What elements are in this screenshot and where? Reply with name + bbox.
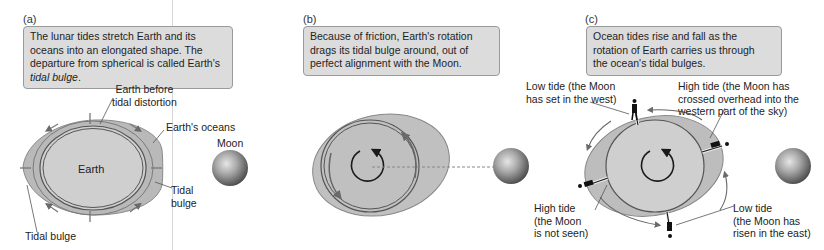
label-earth-before-distortion: Earth before tidal distortion [112, 83, 177, 108]
label-high-tide-unseen: High tide (the Moon is not seen) [534, 202, 588, 240]
label-line: has set in the west) [526, 93, 616, 106]
earth-body [606, 120, 704, 212]
label-line: is not seen) [534, 227, 588, 240]
label-low-tide-west: Low tide (the Moon has set in the west) [526, 80, 616, 105]
label-earth: Earth [78, 163, 104, 176]
label-tidal-bulge-right: Tidal bulge [171, 184, 197, 209]
label-line: crossed overhead into the [678, 93, 799, 106]
label-line: (the Moon has [733, 215, 811, 228]
label-line: Tidal [171, 184, 197, 197]
person-bottom-icon [667, 212, 672, 238]
label-line: High tide [534, 202, 588, 215]
label-line: Low tide [733, 202, 811, 215]
panel-a-diagram [20, 98, 248, 232]
label-moon: Moon [217, 137, 243, 150]
diagram-canvas [0, 0, 824, 250]
label-tidal-bulge-left: Tidal bulge [25, 230, 76, 243]
label-line: Earth before [112, 83, 177, 96]
label-line: Low tide (the Moon [526, 80, 616, 93]
label-line: (the Moon [534, 215, 588, 228]
moon-icon [775, 148, 811, 184]
label-line: bulge [171, 197, 197, 210]
label-high-tide-overhead: High tide (the Moon has crossed overhead… [678, 80, 799, 118]
label-line: risen in the east) [733, 227, 811, 240]
label-low-tide-east: Low tide (the Moon has risen in the east… [733, 202, 811, 240]
label-line: western part of the sky) [678, 105, 799, 118]
label-earths-oceans: Earth's oceans [166, 121, 235, 134]
panel-b-diagram [303, 102, 529, 229]
moon-icon [212, 150, 248, 186]
label-line: tidal distortion [112, 96, 177, 109]
moon-icon [493, 148, 529, 184]
label-line: High tide (the Moon has [678, 80, 799, 93]
